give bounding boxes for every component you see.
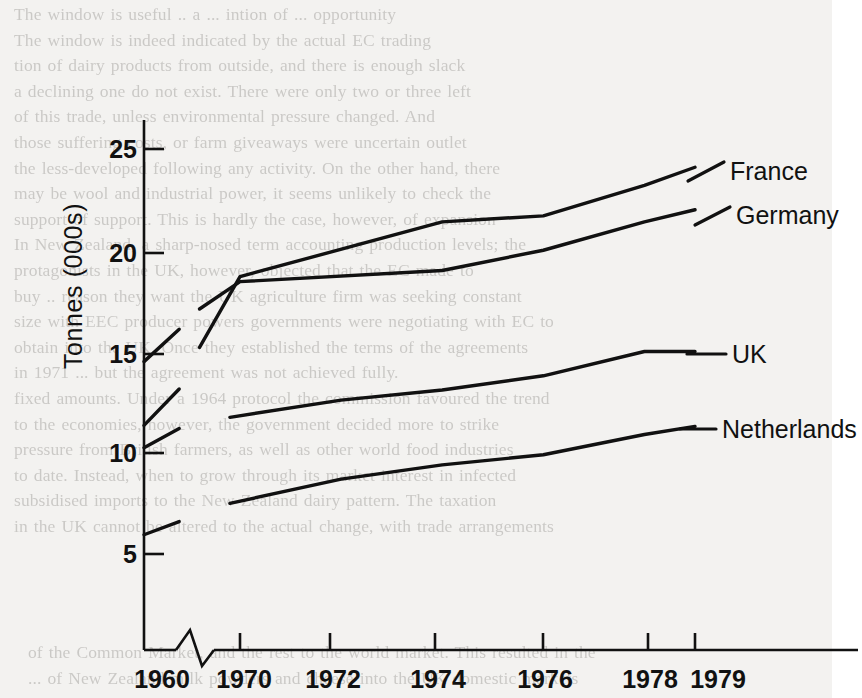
x-tick-label-1960: 1960 xyxy=(134,665,190,693)
series-label-uk: UK xyxy=(732,340,767,368)
series-line-uk-main xyxy=(230,352,695,418)
x-tick-label-1972: 1972 xyxy=(305,665,361,693)
series-line-uk-pre-break xyxy=(144,428,179,447)
series-label-group: France Germany UK Netherlands xyxy=(680,157,857,443)
y-tick-label-25: 25 xyxy=(109,135,137,163)
x-tick-label-1976: 1976 xyxy=(517,665,573,693)
axis-break-zigzag-icon xyxy=(176,630,214,666)
y-tick-label-5: 5 xyxy=(123,540,137,568)
series-line-netherlands-pre-break xyxy=(144,522,179,535)
y-tick-label-10: 10 xyxy=(109,439,137,467)
x-tick-label-1979: 1979 xyxy=(690,665,746,693)
series-line-france-pre-break xyxy=(144,329,179,361)
series-label-germany: Germany xyxy=(736,201,839,229)
y-axis-title: Tonnes (000s) xyxy=(59,203,87,369)
x-tick-label-1978: 1978 xyxy=(622,665,678,693)
x-tick-group: 1960 1970 1972 1974 1976 1978 1979 xyxy=(134,633,746,693)
series-line-germany-main xyxy=(200,210,695,309)
y-tick-label-20: 20 xyxy=(109,239,137,267)
series-line-netherlands-main xyxy=(230,426,695,503)
x-tick-label-1974: 1974 xyxy=(410,665,466,693)
x-tick-label-1970: 1970 xyxy=(216,665,272,693)
leader-line-france xyxy=(688,162,724,181)
series-layer xyxy=(144,167,695,535)
series-line-france-main xyxy=(200,167,695,347)
y-tick-label-15: 15 xyxy=(109,340,137,368)
line-chart-figure: 25 20 15 10 5 1960 1970 1972 1974 1976 1… xyxy=(40,16,792,682)
chart-canvas: 25 20 15 10 5 1960 1970 1972 1974 1976 1… xyxy=(40,16,862,698)
series-label-france: France xyxy=(730,157,808,185)
series-label-netherlands: Netherlands xyxy=(722,415,857,443)
leader-line-germany xyxy=(695,207,730,225)
series-line-germany-pre-break xyxy=(144,389,179,425)
